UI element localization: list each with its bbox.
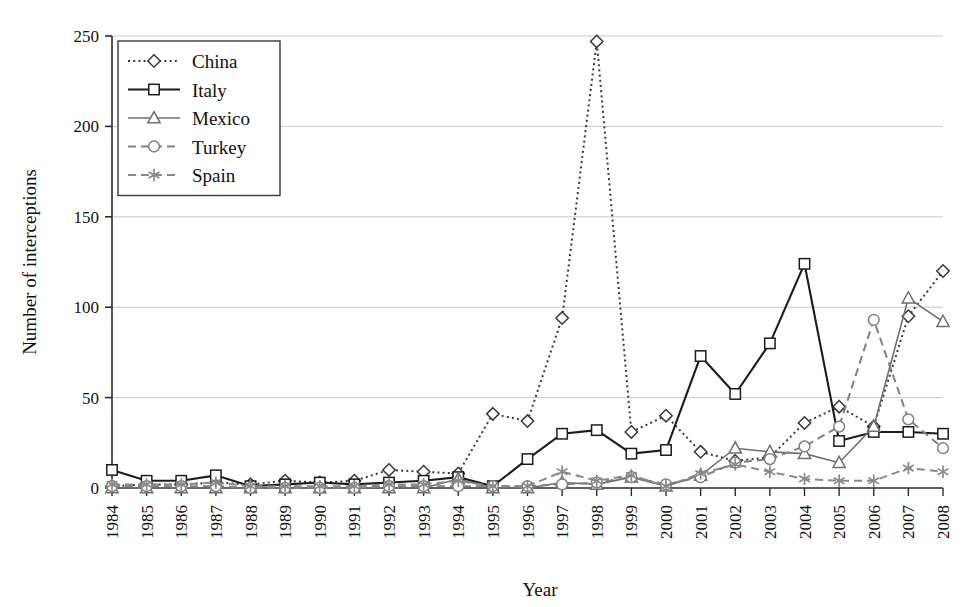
- chart-figure: 050100150200250 198419851986198719881989…: [0, 0, 966, 607]
- x-tick-label: 1989: [276, 505, 295, 539]
- marker-square: [661, 445, 671, 455]
- x-tick-label: 1998: [588, 505, 607, 539]
- line-chart-canvas: 050100150200250 198419851986198719881989…: [0, 0, 966, 607]
- marker-diamond: [383, 464, 395, 476]
- legend-box: ChinaItalyMexicoTurkeySpain: [118, 41, 280, 196]
- x-axis-label: Year: [522, 579, 558, 600]
- marker-square: [903, 427, 913, 437]
- marker-square: [834, 436, 844, 446]
- x-tick-label: 1988: [242, 505, 261, 539]
- marker-square: [592, 425, 602, 435]
- x-tick-label: 2004: [796, 505, 815, 540]
- legend-label-italy: Italy: [192, 80, 227, 101]
- x-tick-label: 2002: [726, 505, 745, 539]
- x-tick-label: 2003: [761, 505, 780, 539]
- marker-circle: [834, 421, 845, 432]
- marker-circle: [764, 454, 775, 465]
- marker-triangle: [937, 315, 949, 326]
- x-tick-label: 1992: [380, 505, 399, 539]
- series-italy: [107, 259, 948, 492]
- marker-circle: [149, 141, 160, 152]
- marker-triangle: [902, 292, 914, 303]
- x-tick-label: 1985: [138, 505, 157, 539]
- legend-label-china: China: [192, 51, 238, 72]
- marker-circle: [903, 414, 914, 425]
- marker-diamond: [591, 35, 603, 47]
- marker-square: [730, 389, 740, 399]
- y-tick-label: 150: [74, 208, 100, 227]
- legend-label-spain: Spain: [192, 165, 236, 186]
- y-axis-label: Number of interceptions: [19, 169, 40, 355]
- marker-circle: [868, 314, 879, 325]
- marker-square: [522, 454, 532, 464]
- marker-square: [149, 84, 159, 94]
- x-tick-label: 1990: [311, 505, 330, 539]
- y-tick-label: 250: [74, 27, 100, 46]
- marker-square: [938, 429, 948, 439]
- marker-asterisk: [938, 466, 949, 478]
- x-tick-label: 1996: [519, 505, 538, 539]
- marker-diamond: [521, 415, 533, 427]
- series-turkey: [107, 314, 949, 493]
- marker-square: [799, 259, 809, 269]
- x-tick-label: 1986: [172, 505, 191, 539]
- x-tick-label: 1999: [622, 505, 641, 539]
- legend-label-turkey: Turkey: [192, 137, 247, 158]
- legend-label-mexico: Mexico: [192, 108, 250, 129]
- marker-square: [765, 338, 775, 348]
- marker-diamond: [660, 409, 672, 421]
- y-tick-label: 100: [74, 298, 100, 317]
- marker-diamond: [556, 312, 568, 324]
- marker-circle: [799, 441, 810, 452]
- marker-diamond: [487, 408, 499, 420]
- marker-circle: [938, 443, 949, 454]
- x-axis-ticks: 1984198519861987198819891990199119921993…: [103, 488, 953, 539]
- x-tick-label: 2007: [899, 505, 918, 540]
- x-tick-label: 1995: [484, 505, 503, 539]
- x-tick-label: 1997: [553, 505, 572, 540]
- x-tick-label: 1991: [345, 505, 364, 539]
- series-line: [112, 264, 943, 486]
- marker-square: [695, 351, 705, 361]
- y-tick-label: 50: [82, 389, 99, 408]
- x-tick-label: 2006: [865, 505, 884, 539]
- x-tick-label: 1993: [415, 505, 434, 539]
- y-axis-ticks: 050100150200250: [74, 27, 113, 498]
- marker-asterisk: [903, 462, 914, 474]
- x-tick-label: 1984: [103, 505, 122, 540]
- x-tick-label: 2001: [692, 505, 711, 539]
- marker-triangle: [729, 442, 741, 453]
- x-tick-label: 1987: [207, 505, 226, 540]
- x-tick-label: 2008: [934, 505, 953, 539]
- marker-square: [626, 448, 636, 458]
- y-tick-label: 0: [91, 479, 100, 498]
- marker-circle: [557, 479, 568, 490]
- x-tick-label: 2000: [657, 505, 676, 539]
- x-tick-label: 1994: [449, 505, 468, 540]
- y-tick-label: 200: [74, 117, 100, 136]
- marker-diamond: [798, 417, 810, 429]
- marker-diamond: [625, 426, 637, 438]
- marker-square: [557, 429, 567, 439]
- x-tick-label: 2005: [830, 505, 849, 539]
- marker-diamond: [937, 265, 949, 277]
- marker-diamond: [694, 446, 706, 458]
- marker-square: [107, 465, 117, 475]
